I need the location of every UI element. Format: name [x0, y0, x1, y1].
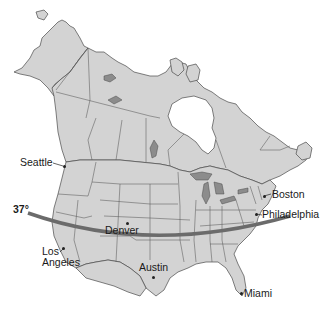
- boston-marker: [263, 195, 266, 198]
- city-label-philadelphia: Philadelphia: [262, 209, 319, 220]
- city-label-miami: Miami: [244, 288, 272, 299]
- austin-marker: [152, 276, 155, 279]
- city-label-los-angeles-line2: Angeles: [42, 257, 80, 268]
- philadelphia-marker: [255, 213, 258, 216]
- latitude-label: 37°: [13, 204, 29, 215]
- city-label-seattle: Seattle: [20, 157, 53, 168]
- los-angeles-marker: [62, 247, 65, 250]
- city-label-austin: Austin: [139, 262, 168, 273]
- seattle-leader: [53, 163, 63, 166]
- city-label-boston: Boston: [272, 189, 305, 200]
- miami-marker: [240, 292, 243, 295]
- alaska-island: [36, 10, 48, 20]
- city-label-denver: Denver: [105, 225, 139, 236]
- seattle-marker: [63, 165, 66, 168]
